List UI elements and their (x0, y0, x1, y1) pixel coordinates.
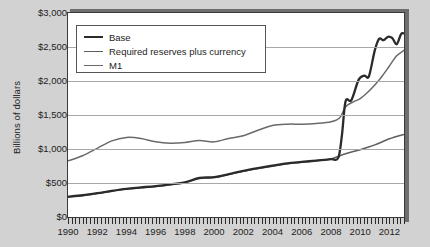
gridline (68, 115, 404, 116)
x-tick-label: 2010 (350, 226, 371, 237)
x-minor-tick (137, 218, 138, 224)
legend-item[interactable]: M1 (84, 59, 258, 73)
x-minor-tick (232, 218, 233, 224)
x-minor-tick (145, 218, 146, 224)
x-minor-tick (75, 218, 76, 224)
x-minor-tick (119, 218, 120, 224)
x-minor-tick (254, 218, 255, 224)
x-minor-tick (273, 218, 274, 224)
chart-figure: Billions of dollars $0$500$1,000$1,500$2… (0, 0, 430, 247)
x-minor-tick (258, 218, 259, 224)
x-minor-tick (294, 218, 295, 224)
x-minor-tick (185, 218, 186, 224)
y-tick-label: $1,500 (9, 109, 67, 120)
y-tick-label: $500 (9, 177, 67, 188)
x-minor-tick (79, 218, 80, 224)
x-minor-tick (159, 218, 160, 224)
x-minor-tick (210, 218, 211, 224)
legend-swatch-icon (84, 51, 103, 52)
x-minor-tick (243, 218, 244, 224)
x-minor-tick (105, 218, 106, 224)
x-minor-tick (320, 218, 321, 224)
series-line-required-reserves-plus-currency (68, 134, 404, 197)
x-minor-tick (94, 218, 95, 224)
x-minor-tick (174, 218, 175, 224)
y-tick-label: $2,000 (9, 75, 67, 86)
x-minor-tick (335, 218, 336, 224)
x-minor-tick (313, 218, 314, 224)
x-minor-tick (86, 218, 87, 224)
x-minor-tick (378, 218, 379, 224)
x-minor-tick (236, 218, 237, 224)
x-minor-tick (357, 218, 358, 224)
x-tick-label: 2004 (262, 226, 283, 237)
x-minor-tick (400, 218, 401, 224)
x-tick-label: 2000 (204, 226, 225, 237)
x-minor-tick (115, 218, 116, 224)
x-tick-label: 1996 (145, 226, 166, 237)
x-minor-tick (156, 218, 157, 224)
x-minor-tick (123, 218, 124, 224)
legend-swatch-icon (84, 36, 103, 38)
x-minor-tick (382, 218, 383, 224)
x-minor-tick (189, 218, 190, 224)
x-minor-tick (225, 218, 226, 224)
x-minor-tick (364, 218, 365, 224)
x-minor-tick (108, 218, 109, 224)
x-minor-tick (199, 218, 200, 224)
x-minor-tick (196, 218, 197, 224)
x-minor-tick (302, 218, 303, 224)
x-minor-tick (367, 218, 368, 224)
y-tick-label: $2,500 (9, 41, 67, 52)
x-minor-tick (283, 218, 284, 224)
x-minor-tick (218, 218, 219, 224)
x-minor-tick (280, 218, 281, 224)
x-minor-tick (90, 218, 91, 224)
x-minor-tick (265, 218, 266, 224)
legend-label: Base (109, 32, 131, 43)
x-minor-tick (214, 218, 215, 224)
legend-item[interactable]: Required reserves plus currency (84, 45, 258, 59)
x-minor-tick (404, 218, 405, 224)
x-minor-tick (386, 218, 387, 224)
x-tick-label: 2008 (320, 226, 341, 237)
y-tick-label: $1,000 (9, 143, 67, 154)
x-minor-tick (287, 218, 288, 224)
chart-legend: BaseRequired reserves plus currencyM1 (76, 25, 266, 73)
x-minor-tick (221, 218, 222, 224)
x-minor-tick (360, 218, 361, 224)
gridline (68, 183, 404, 184)
x-minor-tick (371, 218, 372, 224)
x-minor-tick (316, 218, 317, 224)
x-minor-tick (83, 218, 84, 224)
x-minor-tick (68, 218, 69, 224)
x-minor-tick (192, 218, 193, 224)
x-minor-tick (152, 218, 153, 224)
x-minor-tick (338, 218, 339, 224)
x-minor-tick (298, 218, 299, 224)
x-minor-tick (141, 218, 142, 224)
gridline (68, 81, 404, 82)
x-minor-tick (269, 218, 270, 224)
x-minor-tick (178, 218, 179, 224)
x-tick-label: 1992 (87, 226, 108, 237)
x-minor-tick (305, 218, 306, 224)
legend-label: Required reserves plus currency (109, 46, 246, 57)
x-minor-tick (393, 218, 394, 224)
x-minor-tick (97, 218, 98, 224)
x-minor-tick (251, 218, 252, 224)
x-minor-tick (309, 218, 310, 224)
x-minor-tick (397, 218, 398, 224)
legend-label: M1 (109, 60, 122, 71)
x-minor-tick (331, 218, 332, 224)
x-minor-tick (130, 218, 131, 224)
x-minor-tick (72, 218, 73, 224)
x-minor-tick (126, 218, 127, 224)
y-tick-label: $0 (9, 211, 67, 222)
legend-item[interactable]: Base (84, 31, 258, 45)
x-axis-minor-ticks (68, 218, 404, 224)
x-minor-tick (349, 218, 350, 224)
x-minor-tick (101, 218, 102, 224)
x-minor-tick (240, 218, 241, 224)
x-minor-tick (181, 218, 182, 224)
